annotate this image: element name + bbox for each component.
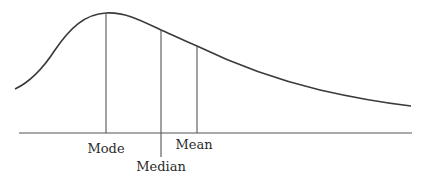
mode-label: Mode [87,142,124,155]
density-curve [15,13,411,106]
diagram-graphic [0,0,421,184]
mean-label: Mean [175,138,212,151]
skewed-distribution-diagram: Mode Mean Median [0,0,421,184]
median-label: Median [136,160,186,173]
